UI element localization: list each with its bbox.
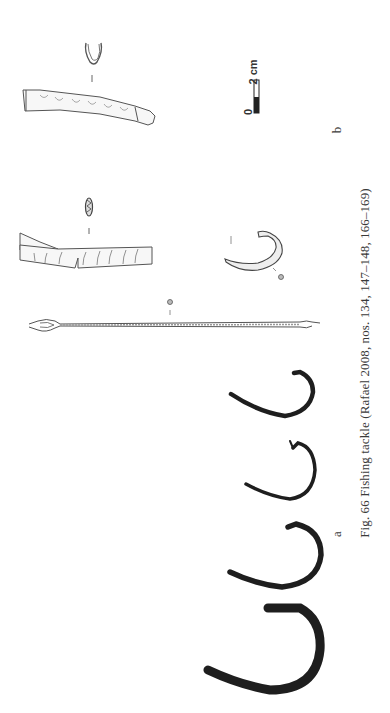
netting-needle (29, 320, 320, 332)
ribbed-float (20, 233, 152, 268)
ribbed-float-cross-section (86, 198, 93, 216)
iron-hook-4 (208, 608, 320, 690)
tapered-float (23, 90, 155, 125)
needle-cross-section (168, 300, 173, 316)
iron-hook-1 (231, 372, 313, 416)
scale-zero-label: 0 (242, 107, 254, 117)
tapered-float-cross-section (86, 43, 102, 64)
figure-drawings (0, 0, 390, 713)
panel-label-a: a (329, 527, 345, 541)
small-hook (225, 231, 282, 270)
figure-caption: Fig. 66 Fishing tackle (Rafael 2008, nos… (357, 163, 373, 563)
panel-label-b: b (329, 123, 345, 137)
small-hook-cross-section (273, 268, 284, 280)
iron-hook-2 (246, 443, 315, 499)
scale-max-label: 2 cm (247, 57, 259, 87)
iron-hook-3 (230, 524, 321, 587)
